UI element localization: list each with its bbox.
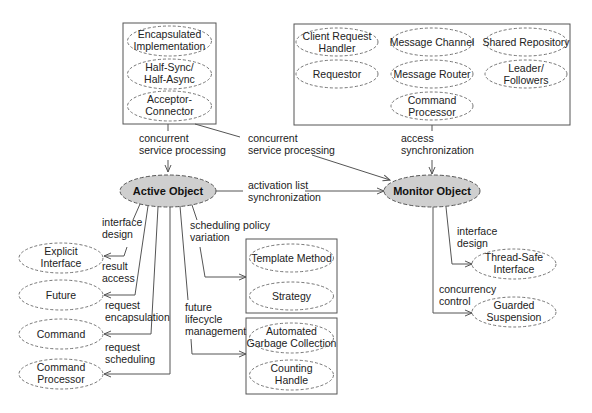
edge-label: future [185,301,212,313]
edge-label: scheduling policy [190,219,271,231]
edge-label: activation list [248,179,308,191]
edge-label: interface [457,225,497,237]
pattern-requestor[interactable]: Requestor [296,60,378,88]
edge-label: management [185,325,246,337]
lifecycle-pattern-group: Automated Garbage Collection Counting Ha… [246,318,337,394]
pattern-label: Counting [270,362,312,374]
pattern-label: Strategy [272,290,312,302]
edge-label: interface [102,216,142,228]
pattern-label: Garbage Collection [247,337,337,349]
pattern-label: Guarded [494,299,535,311]
monitor-object-node[interactable]: Monitor Object [384,175,480,207]
pattern-label: Message Router [393,68,471,80]
edge-active-to-monitor: activation list synchronization [216,179,384,203]
edge-label: access [401,132,434,144]
pattern-future[interactable]: Future [19,280,103,310]
pattern-label: Future [46,289,77,301]
pattern-label: Processor [37,373,85,385]
pattern-encapsulated-implementation[interactable]: Encapsulated Implementation [128,26,212,56]
pattern-label: Implementation [134,40,206,52]
edge-label: service processing [248,144,335,156]
pattern-label: Interface [41,257,82,269]
edge-label: scheduling [105,353,155,365]
pattern-client-request-handler[interactable]: Client Request Handler [296,28,378,56]
pattern-label: Handle [275,374,308,386]
edge-label: result [102,260,128,272]
pattern-label: Command [408,94,457,106]
edge-label: concurrent [139,132,189,144]
top-right-pattern-group: Client Request Handler Message Channel S… [294,24,570,125]
pattern-label: Automated [266,325,317,337]
pattern-label: Thread-Safe [485,251,544,263]
pattern-command-processor-bottom[interactable]: Command Processor [19,359,103,389]
edge-label: access [102,272,135,284]
pattern-label: Suspension [487,311,542,323]
top-left-pattern-group: Encapsulated Implementation Half-Sync/ H… [123,23,216,124]
pattern-message-channel[interactable]: Message Channel [390,28,475,56]
edge-label: encapsulation [105,311,170,323]
pattern-command-processor-top[interactable]: Command Processor [391,92,473,120]
pattern-relationship-diagram: Encapsulated Implementation Half-Sync/ H… [0,0,592,413]
edge-label: concurrent [248,132,298,144]
pattern-label: Half-Sync/ [145,61,194,73]
edge-right-group-to-monitor-object: access synchronization [401,125,474,174]
pattern-label: Handler [319,42,356,54]
edge-label: concurrency [439,283,497,295]
pattern-label: Client Request [303,30,372,42]
pattern-half-sync-half-async[interactable]: Half-Sync/ Half-Async [128,59,212,89]
node-label: Monitor Object [393,185,471,197]
pattern-label: Template Method [251,252,332,264]
pattern-label: Encapsulated [138,28,202,40]
pattern-thread-safe-interface[interactable]: Thread-Safe Interface [472,249,556,279]
edge-label: lifecycle [185,313,223,325]
pattern-guarded-suspension[interactable]: Guarded Suspension [472,297,556,327]
edge-label: request [105,299,140,311]
pattern-message-router[interactable]: Message Router [391,60,473,88]
pattern-label: Message Channel [390,36,475,48]
pattern-label: Requestor [313,68,362,80]
edge-label: control [439,295,471,307]
pattern-acceptor-connector[interactable]: Acceptor- Connector [128,91,212,121]
pattern-leader-followers[interactable]: Leader/ Followers [485,60,567,88]
pattern-label: Processor [408,106,456,118]
pattern-label: Explicit [44,245,77,257]
edge-interface-design-ao: interface design [102,204,142,256]
pattern-label: Acceptor- [147,93,192,105]
edge-label: request [105,341,140,353]
pattern-template-method[interactable]: Template Method [250,244,334,272]
edge-label: variation [190,231,230,243]
node-label: Active Object [133,185,204,197]
pattern-label: Followers [504,74,549,86]
pattern-label: Command [37,328,86,340]
edge-label: design [457,237,488,249]
edge-label: synchronization [401,144,474,156]
pattern-label: Shared Repository [483,36,571,48]
pattern-label: Interface [494,263,535,275]
pattern-label: Connector [145,105,194,117]
pattern-label: Half-Async [144,73,195,85]
pattern-label: Leader/ [508,62,544,74]
active-object-node[interactable]: Active Object [120,175,216,207]
pattern-strategy[interactable]: Strategy [250,282,334,310]
pattern-command[interactable]: Command [19,319,103,349]
edge-label: synchronization [248,191,321,203]
pattern-label: Command [37,361,86,373]
edge-label: design [102,228,133,240]
pattern-automated-garbage-collection[interactable]: Automated Garbage Collection [247,323,337,353]
edge-left-group-to-active-object: concurrent service processing [139,124,226,172]
pattern-counting-handle[interactable]: Counting Handle [250,360,334,390]
edge-label: service processing [139,144,226,156]
active-object-target-patterns: Explicit Interface Future Command Comman… [19,243,103,389]
pattern-explicit-interface[interactable]: Explicit Interface [19,243,103,273]
scheduling-pattern-group: Template Method Strategy [246,239,337,313]
pattern-shared-repository[interactable]: Shared Repository [483,28,571,56]
